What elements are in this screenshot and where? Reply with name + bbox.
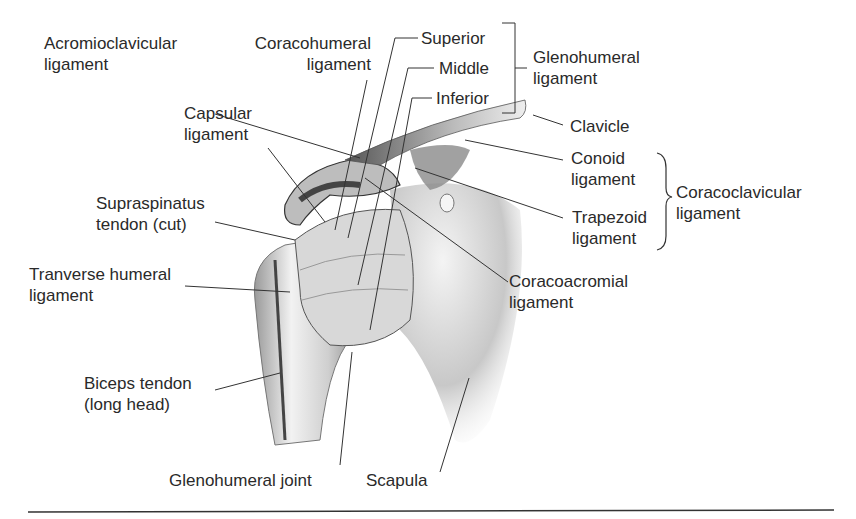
label-line: tendon (cut)	[96, 214, 205, 235]
label-supraspinatus-tendon: Supraspinatus tendon (cut)	[96, 193, 205, 235]
label-line: ligament	[509, 292, 628, 313]
label-line: Clavicle	[570, 116, 630, 137]
label-line: Glenohumeral	[533, 47, 640, 68]
label-transverse-humeral-ligament: Tranverse humeral ligament	[29, 264, 171, 306]
label-trapezoid-ligament: Trapezoid ligament	[572, 207, 647, 249]
label-line: Supraspinatus	[96, 193, 205, 214]
label-line: Scapula	[366, 470, 427, 491]
label-line: Tranverse humeral	[29, 264, 171, 285]
label-line: ligament	[226, 54, 371, 75]
label-line: Coracoclavicular	[676, 182, 802, 203]
label-line: Middle	[439, 58, 489, 79]
label-line: ligament	[572, 228, 647, 249]
label-line: Inferior	[436, 88, 489, 109]
bottom-rule	[28, 510, 834, 512]
label-line: ligament	[533, 68, 640, 89]
label-line: ligament	[184, 124, 252, 145]
label-superior: Superior	[421, 28, 485, 49]
label-glenohumeral-joint: Glenohumeral joint	[169, 470, 312, 491]
label-line: Conoid	[571, 148, 635, 169]
label-conoid-ligament: Conoid ligament	[571, 148, 635, 190]
label-clavicle: Clavicle	[570, 116, 630, 137]
label-line: Capsular	[184, 103, 252, 124]
label-inferior: Inferior	[436, 88, 489, 109]
label-line: ligament	[571, 169, 635, 190]
label-line: (long head)	[84, 394, 192, 415]
label-line: Trapezoid	[572, 207, 647, 228]
label-acromioclavicular-ligament: Acromioclavicular ligament	[44, 33, 177, 75]
label-line: Biceps tendon	[84, 373, 192, 394]
shoulder-ligament-diagram: Acromioclavicular ligament Coracohumeral…	[0, 0, 856, 519]
label-scapula: Scapula	[366, 470, 427, 491]
label-line: ligament	[29, 285, 171, 306]
label-glenohumeral-ligament: Glenohumeral ligament	[533, 47, 640, 89]
label-line: Acromioclavicular	[44, 33, 177, 54]
label-line: Coracoacromial	[509, 271, 628, 292]
label-biceps-tendon: Biceps tendon (long head)	[84, 373, 192, 415]
anatomy-illustration	[0, 0, 856, 519]
coracoclavicular-brace	[657, 153, 672, 250]
label-coracoclavicular-ligament: Coracoclavicular ligament	[676, 182, 802, 224]
label-coracoacromial-ligament: Coracoacromial ligament	[509, 271, 628, 313]
label-coracohumeral-ligament: Coracohumeral ligament	[226, 33, 371, 75]
label-line: Glenohumeral joint	[169, 470, 312, 491]
label-line: Coracohumeral	[226, 33, 371, 54]
label-line: Superior	[421, 28, 485, 49]
label-line: ligament	[44, 54, 177, 75]
label-line: ligament	[676, 203, 802, 224]
label-middle: Middle	[439, 58, 489, 79]
label-capsular-ligament: Capsular ligament	[184, 103, 252, 145]
